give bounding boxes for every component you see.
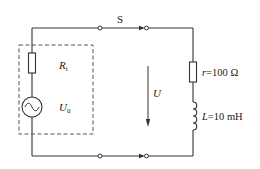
inductor-icon — [193, 102, 197, 130]
switch-label: S — [117, 13, 123, 25]
ac-source-icon — [22, 97, 42, 117]
internal-resistor-label: Ri — [58, 59, 68, 73]
u0-subscript: 0 — [67, 107, 71, 115]
source-label: U0 — [59, 101, 71, 115]
load-resistor-label: r=100 Ω — [202, 67, 238, 78]
inductor-label: L=10 mH — [201, 111, 243, 122]
ri-subscript: i — [66, 65, 68, 73]
r-value: =100 Ω — [206, 67, 238, 78]
wires — [32, 28, 193, 156]
l-value: =10 mH — [208, 111, 243, 122]
load-resistor-icon — [190, 62, 197, 82]
internal-resistor-icon — [29, 53, 36, 73]
circuit-diagram: S Ri U0 U r=100 Ω L=10 mH — [0, 0, 260, 169]
voltage-arrow-icon — [146, 66, 150, 127]
voltage-label: U — [153, 87, 162, 99]
